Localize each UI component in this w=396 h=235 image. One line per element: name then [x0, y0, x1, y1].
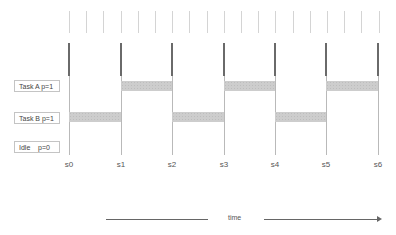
tick-mark: [293, 11, 294, 33]
arrow-right-icon: [377, 216, 382, 222]
tick-mark: [310, 11, 311, 33]
tick-mark: [344, 11, 345, 33]
slot-boundary-line: [378, 76, 379, 155]
tick-mark: [138, 11, 139, 33]
slot-label-s2: s2: [168, 160, 176, 169]
slot-boundary-marker: [68, 43, 70, 76]
execution-bar-task-a: [224, 81, 275, 91]
execution-bar-task-a: [121, 81, 172, 91]
slot-boundary-marker: [120, 43, 122, 76]
slot-label-s1: s1: [117, 160, 125, 169]
time-label: time: [228, 214, 241, 221]
tick-mark: [224, 11, 225, 33]
slot-boundary-marker: [325, 43, 327, 76]
tick-mark: [189, 11, 190, 33]
tick-mark: [207, 11, 208, 33]
tick-mark: [103, 11, 104, 33]
slot-label-s5: s5: [322, 160, 330, 169]
slot-boundary-marker: [223, 43, 225, 76]
tick-mark: [86, 11, 87, 33]
slot-boundary-marker: [171, 43, 173, 76]
execution-bar-task-b: [172, 112, 224, 122]
time-axis-right-line: [264, 219, 379, 220]
task-b-label: Task B p=1: [14, 112, 60, 124]
idle-label: Idle p=0: [14, 141, 60, 153]
slot-boundary-marker: [274, 43, 276, 76]
slot-label-s0: s0: [65, 160, 73, 169]
slot-label-s4: s4: [271, 160, 279, 169]
tick-mark: [258, 11, 259, 33]
tick-mark: [275, 11, 276, 33]
slot-boundary-marker: [377, 43, 379, 76]
execution-bar-task-b: [275, 112, 326, 122]
slot-label-s3: s3: [220, 160, 228, 169]
tick-mark: [69, 11, 70, 33]
tick-mark: [121, 11, 122, 33]
tick-mark: [327, 11, 328, 33]
tick-mark: [379, 11, 380, 33]
tick-mark: [172, 11, 173, 33]
execution-bar-task-b: [69, 112, 121, 122]
execution-bar-task-a: [326, 81, 378, 91]
tick-mark: [241, 11, 242, 33]
task-a-label: Task A p=1: [14, 80, 60, 92]
slot-label-s6: s6: [374, 160, 382, 169]
tick-mark: [155, 11, 156, 33]
time-axis-left-line: [106, 219, 208, 220]
tick-mark: [361, 11, 362, 33]
